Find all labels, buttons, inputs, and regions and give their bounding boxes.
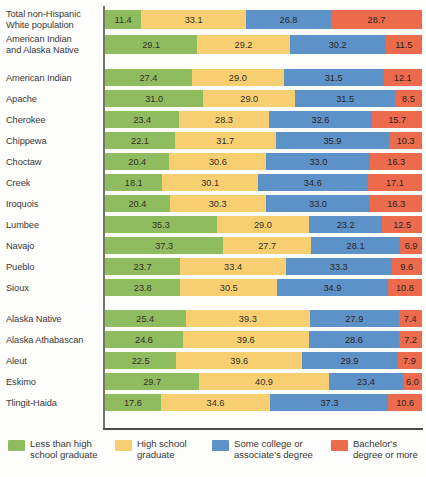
bar-segment: 22.5 (105, 352, 176, 369)
bar-segment: 34.6 (161, 394, 271, 411)
chart-row: Creek18.130.134.617.1 (0, 173, 426, 193)
bar-segment: 39.3 (186, 310, 311, 327)
bar-segment: 17.6 (105, 394, 161, 411)
bar-segment: 10.3 (389, 132, 422, 149)
bar-segment: 20.4 (105, 153, 169, 170)
chart-row: Apache31.029.031.58.5 (0, 89, 426, 109)
bar-segment: 16.3 (370, 195, 422, 212)
bar-segment: 7.2 (399, 331, 422, 348)
row-label: Pueblo (6, 257, 100, 277)
x-axis-line (103, 428, 423, 430)
bar-segment: 6.9 (400, 237, 422, 254)
bar-segment: 10.8 (388, 279, 422, 296)
bar-segment: 17.1 (368, 174, 422, 191)
chart-row: Total non-Hispanic White population11.43… (0, 8, 426, 32)
bar-segment: 29.7 (105, 373, 199, 390)
bar-segment: 11.5 (386, 35, 422, 54)
bar-segment: 33.0 (266, 153, 370, 170)
bar-segment: 31.0 (105, 90, 203, 107)
legend-item: Bachelor's degree or more (331, 438, 424, 461)
chart-row: Alaska Native25.439.327.97.4 (0, 309, 426, 329)
row-label: Eskimo (6, 372, 100, 392)
row-label: Chippewa (6, 131, 100, 151)
bar-segment: 7.4 (399, 310, 422, 327)
row-label: Lumbee (6, 215, 100, 235)
stacked-bar: 31.029.031.58.5 (105, 90, 422, 107)
row-label: Sioux (6, 278, 100, 298)
bar-segment: 20.4 (105, 195, 170, 212)
bar-segment: 11.4 (105, 10, 141, 29)
bar-segment: 31.7 (175, 132, 275, 149)
bar-segment: 8.5 (395, 90, 422, 107)
row-label: Navajo (6, 236, 100, 256)
bar-segment: 27.7 (223, 237, 311, 254)
bar-segment: 7.9 (397, 352, 422, 369)
row-label: American Indian (6, 68, 100, 88)
row-label: Aleut (6, 351, 100, 371)
chart-row: Cherokee23.428.332.615.7 (0, 110, 426, 130)
bar-segment: 18.1 (105, 174, 162, 191)
stacked-bar: 20.430.333.016.3 (105, 195, 422, 212)
row-label: Apache (6, 89, 100, 109)
bar-segment: 12.1 (384, 69, 422, 86)
bar-segment: 33.3 (286, 258, 392, 275)
chart-row: Alaska Athabascan24.639.628.67.2 (0, 330, 426, 350)
bar-segment: 6.0 (403, 373, 422, 390)
row-label: Alaska Athabascan (6, 330, 100, 350)
stacked-bar: 25.439.327.97.4 (105, 310, 422, 327)
bar-segment: 28.3 (179, 111, 269, 128)
bar-segment: 35.3 (105, 216, 217, 233)
bar-segment: 23.4 (329, 373, 403, 390)
stacked-bar: 23.830.534.910.8 (105, 279, 422, 296)
bar-segment: 16.3 (370, 153, 422, 170)
row-label: Total non-Hispanic White population (6, 8, 100, 32)
bar-segment: 23.4 (105, 111, 179, 128)
bar-segment: 37.3 (270, 394, 388, 411)
bar-segment: 34.6 (258, 174, 368, 191)
bar-segment: 29.0 (217, 216, 309, 233)
bar-segment: 27.4 (105, 69, 192, 86)
chart-legend: Less than high school graduateHigh schoo… (0, 438, 426, 477)
legend-label: Less than high school graduate (30, 438, 98, 461)
chart-row: Lumbee35.329.023.212.5 (0, 215, 426, 235)
bar-segment: 33.1 (141, 10, 246, 29)
bar-segment: 31.5 (284, 69, 384, 86)
bar-segment: 22.1 (105, 132, 175, 149)
stacked-bar: 29.740.923.46.0 (105, 373, 422, 390)
legend-label: High school graduate (137, 438, 187, 461)
legend-label: Some college or associate's degree (234, 438, 313, 461)
bar-segment: 31.5 (295, 90, 395, 107)
bar-segment: 29.2 (197, 35, 290, 54)
stacked-bar: 35.329.023.212.5 (105, 216, 422, 233)
bar-segment: 30.1 (162, 174, 258, 191)
legend-label: Bachelor's degree or more (353, 438, 418, 461)
bar-segment: 28.1 (311, 237, 400, 254)
stacked-bar: 20.430.633.016.3 (105, 153, 422, 170)
bar-segment: 9.6 (392, 258, 422, 275)
educational-attainment-chart: Total non-Hispanic White population11.43… (0, 0, 426, 477)
stacked-bar: 22.131.735.910.3 (105, 132, 422, 149)
chart-row: Eskimo29.740.923.46.0 (0, 372, 426, 392)
chart-row: Choctaw20.430.633.016.3 (0, 152, 426, 172)
stacked-bar: 29.129.230.211.5 (105, 35, 422, 54)
bar-segment: 29.1 (105, 35, 197, 54)
legend-item: Less than high school graduate (0, 438, 113, 461)
row-label: Choctaw (6, 152, 100, 172)
chart-row: American Indian27.429.031.512.1 (0, 68, 426, 88)
bar-segment: 30.5 (180, 279, 277, 296)
legend-item: High school graduate (115, 438, 210, 461)
bar-segment: 12.5 (382, 216, 422, 233)
stacked-bar: 37.327.728.16.9 (105, 237, 422, 254)
stacked-bar: 18.130.134.617.1 (105, 174, 422, 191)
bar-rows: Total non-Hispanic White population11.43… (0, 8, 426, 414)
bar-segment: 28.7 (331, 10, 422, 29)
legend-swatch-icon (115, 440, 132, 451)
bar-segment: 15.7 (372, 111, 422, 128)
bar-segment: 25.4 (105, 310, 186, 327)
bar-segment: 32.6 (269, 111, 372, 128)
bar-segment: 24.6 (105, 331, 183, 348)
bar-segment: 29.0 (203, 90, 295, 107)
bar-segment: 23.8 (105, 279, 180, 296)
bar-segment: 39.6 (183, 331, 309, 348)
bar-segment: 34.9 (277, 279, 388, 296)
